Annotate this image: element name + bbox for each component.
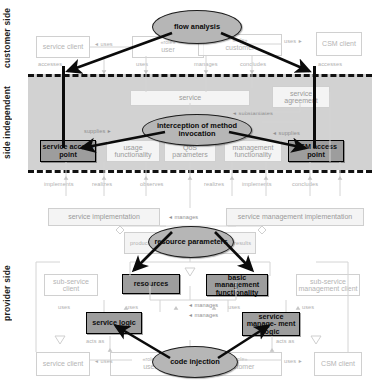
node-csm-client-bottom[interactable]: CSM client bbox=[314, 352, 362, 376]
node-sub-service-client[interactable]: sub-service client bbox=[44, 274, 98, 296]
relation-manages-b1: ◄ manages bbox=[188, 302, 218, 308]
relation-concludes-bottom: concludes bbox=[292, 181, 318, 187]
node-label: basic management functionality bbox=[208, 274, 266, 297]
relation-results: results bbox=[234, 240, 251, 246]
node-service-client-top[interactable]: service client bbox=[36, 36, 90, 58]
relation-accesses-left: accesses bbox=[38, 61, 62, 67]
node-label: service agreement bbox=[274, 90, 328, 105]
side-label-customer: customer side bbox=[0, 2, 14, 74]
node-service-access-point[interactable]: service access point bbox=[40, 140, 96, 162]
band-separator-bottom bbox=[28, 170, 372, 173]
side-label-provider-text: provider side bbox=[2, 265, 12, 321]
diagram-canvas: customer side side independent provider … bbox=[0, 0, 372, 392]
relation-supplies-left: supplies ► bbox=[84, 128, 112, 134]
aspect-label: resource parameters bbox=[154, 238, 227, 246]
relation-uses-resources: uses bbox=[126, 304, 138, 310]
relation-supplies-right: ◄ supplies bbox=[272, 130, 300, 136]
side-label-customer-text: customer side bbox=[2, 8, 12, 68]
relation-uses-user: uses bbox=[136, 61, 148, 67]
node-management-functionality[interactable]: management functionality bbox=[224, 140, 282, 162]
node-label: service client bbox=[43, 360, 83, 367]
service-access-pillar bbox=[62, 66, 65, 148]
node-label: service manage- ment logic bbox=[244, 313, 298, 336]
aspect-code-injection[interactable]: code injection bbox=[152, 346, 238, 378]
node-csm-client-top[interactable]: CSM client bbox=[316, 32, 362, 56]
relation-manages-b2: ◄ manages bbox=[188, 312, 218, 318]
relation-realizes-right: realizes bbox=[204, 181, 224, 187]
node-label: management functionality bbox=[226, 144, 280, 159]
aspect-flow-analysis[interactable]: flow analysis bbox=[152, 10, 242, 44]
node-label: service bbox=[179, 94, 201, 101]
relation-acts-as-right: acts as bbox=[276, 338, 294, 344]
aspect-label: flow analysis bbox=[174, 23, 220, 31]
aspect-label: interception of method invocation bbox=[143, 122, 251, 138]
relation-observes: observes bbox=[140, 181, 164, 187]
node-usage-functionality[interactable]: usage functionality bbox=[106, 140, 160, 162]
node-label: service client bbox=[43, 43, 83, 50]
relation-uses-sub-left: uses bbox=[58, 304, 70, 310]
relation-substantiates: ◄ substantiates bbox=[232, 110, 273, 116]
aspect-label: code injection bbox=[170, 358, 220, 366]
node-label: service logic bbox=[92, 319, 136, 327]
node-basic-management-functionality[interactable]: basic management functionality bbox=[206, 274, 268, 296]
node-label: user bbox=[161, 46, 175, 53]
relation-concludes-top: concludes bbox=[240, 61, 266, 67]
node-service-implementation[interactable]: service implementation bbox=[48, 208, 160, 226]
aspect-arrows bbox=[0, 0, 372, 392]
node-service-management-implementation[interactable]: service management implementation bbox=[226, 208, 364, 226]
relation-realizes-left: realizes bbox=[92, 181, 112, 187]
side-label-independent-text: side independent bbox=[2, 85, 12, 158]
node-service-logic[interactable]: service logic bbox=[86, 312, 142, 334]
node-sub-service-management-client[interactable]: sub-service management client bbox=[296, 274, 360, 296]
node-label: CSM access point bbox=[290, 143, 342, 158]
relation-manages-mid: ◄ manages bbox=[168, 214, 198, 220]
node-label: sub-service management client bbox=[298, 278, 358, 293]
side-label-provider: provider side bbox=[0, 238, 14, 348]
relation-uses-sub-right: uses bbox=[302, 304, 314, 310]
node-label: usage functionality bbox=[108, 144, 158, 159]
node-service-client-bottom[interactable]: service client bbox=[36, 352, 90, 376]
node-label: service management implementation bbox=[238, 213, 352, 220]
relation-implements-left: implements bbox=[44, 181, 74, 187]
relation-acts-as-left: acts as bbox=[86, 338, 104, 344]
relation-uses-top-left: ◄ uses bbox=[94, 41, 113, 47]
node-service-management-logic[interactable]: service manage- ment logic bbox=[242, 312, 300, 336]
connector-lines bbox=[0, 0, 372, 392]
node-label: service implementation bbox=[68, 213, 140, 220]
node-csm-access-point[interactable]: CSM access point bbox=[288, 140, 344, 162]
relation-manages-top: manages bbox=[194, 61, 218, 67]
relation-uses-top-right: uses ► bbox=[284, 38, 303, 44]
aspect-resource-parameters[interactable]: resource parameters bbox=[148, 226, 234, 258]
node-label: customer bbox=[226, 44, 255, 51]
relation-uses-bottom-right: uses ► bbox=[284, 358, 303, 364]
csm-access-pillar bbox=[313, 66, 316, 148]
relation-uses-bottom-left: ◄ uses bbox=[94, 358, 113, 364]
band-separator-top bbox=[28, 74, 372, 77]
node-resources[interactable]: resources bbox=[122, 274, 180, 294]
relation-implements-right: implements bbox=[242, 181, 272, 187]
aspect-interception[interactable]: interception of method invocation bbox=[142, 114, 252, 146]
node-label: CSM client bbox=[322, 40, 356, 47]
relation-uses-basic-mgmt: uses bbox=[228, 304, 240, 310]
side-label-independent: side independent bbox=[0, 74, 14, 170]
node-service[interactable]: service bbox=[130, 90, 250, 106]
node-label: sub-service client bbox=[46, 278, 96, 293]
node-label: resources bbox=[134, 280, 168, 288]
node-label: CSM client bbox=[321, 360, 355, 367]
node-label: service access point bbox=[42, 143, 94, 158]
node-service-agreement[interactable]: service agreement bbox=[272, 86, 330, 108]
relation-accesses-right: accesses bbox=[318, 61, 342, 67]
